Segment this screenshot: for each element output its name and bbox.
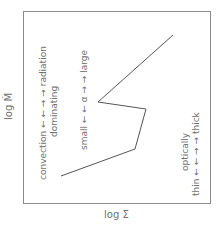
dominating-annotation: dominating (49, 86, 59, 137)
x-axis-label: log Σ (104, 209, 129, 220)
convection-radiation-annotation: convection ← ← → → radiation (38, 46, 48, 180)
optically-annotation: optically (180, 132, 190, 171)
s-curve-line (61, 35, 173, 176)
y-axis-label: log Ṁ (2, 93, 14, 120)
alpha-scale-annotation: small ← ← α → → large (79, 49, 89, 150)
s-curve-diagram: log Ṁ log Σ convection ← ← → → radiation… (0, 0, 216, 228)
thin-thick-annotation: thin ← ← → → thick (191, 111, 201, 196)
